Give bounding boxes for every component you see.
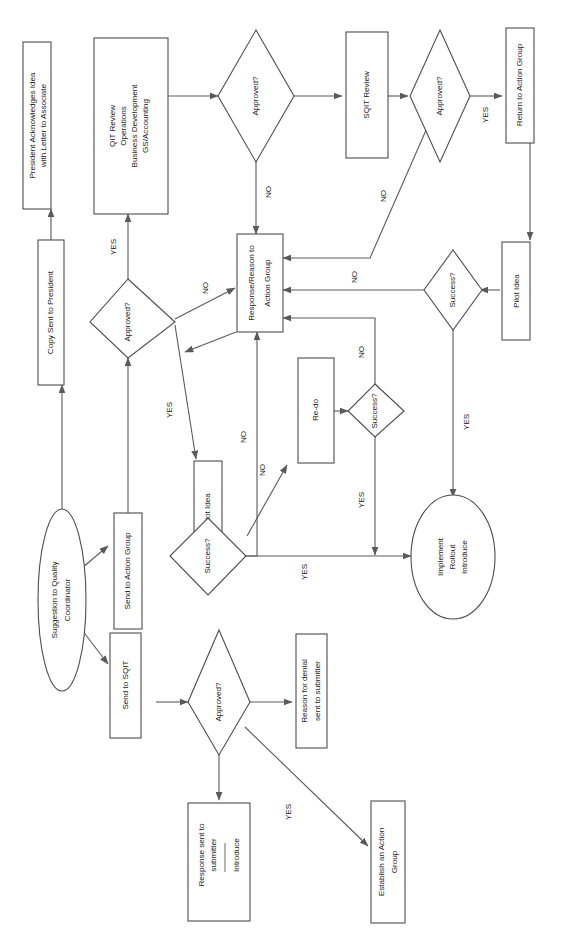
node-implement[interactable]: Implement Rollout Introduce: [411, 495, 495, 619]
node-label: with Letter to Associate: [39, 83, 48, 168]
node-establish-group[interactable]: Establish an Action Group: [371, 801, 405, 923]
edge-label-no: NO: [201, 282, 210, 294]
node-label: submitter: [209, 838, 218, 872]
node-qit-review[interactable]: QIT Review Operations Business Developme…: [94, 38, 168, 214]
edge-label-no: NO: [350, 271, 359, 283]
node-send-action-group[interactable]: Send to Action Group: [114, 513, 142, 629]
node-copy-president[interactable]: Copy Sent to President: [38, 240, 64, 385]
node-label: sent to submitter: [313, 661, 322, 721]
node-label: Coordinator: [63, 579, 72, 622]
node-label: Business Development: [130, 84, 139, 168]
node-label: Success?: [448, 272, 457, 308]
edge-label-yes: YES: [109, 238, 118, 255]
node-label: SQIT Review: [362, 71, 371, 119]
node-label: Rollout: [448, 544, 457, 570]
background: [0, 0, 564, 951]
edge-label-no: NO: [379, 190, 388, 202]
node-label: Operations: [119, 106, 128, 146]
node-label: Establish an Action: [377, 828, 386, 896]
edge-label-no: NO: [264, 186, 273, 198]
node-label: Introduce: [460, 540, 469, 574]
edge-label-yes: YES: [481, 106, 490, 123]
edge-label-yes: YES: [165, 401, 174, 418]
node-label: Group: [390, 850, 399, 873]
edge-label-yes: YES: [462, 413, 471, 430]
node-president-ack[interactable]: President Acknowledges Idea with Letter …: [23, 42, 51, 209]
node-send-sqit[interactable]: Send to SQIT: [110, 633, 141, 738]
edge-label-yes: YES: [300, 563, 309, 580]
node-label: Response sent to: [197, 823, 206, 886]
edge-label-no: NO: [357, 346, 366, 358]
node-response-submit[interactable]: Response sent to submitter Introduce: [188, 803, 250, 921]
node-sqit-review[interactable]: SQIT Review: [346, 32, 388, 158]
node-label: Reason for denial: [300, 659, 309, 723]
flowchart-canvas: YES NO YES NO YES NO NO YES: [0, 0, 564, 951]
node-label: Success?: [203, 538, 212, 574]
edge-label-yes: YES: [357, 491, 366, 508]
node-label: GS/Accounting: [141, 99, 150, 153]
node-label: President Acknowledges Idea: [28, 72, 37, 179]
node-label: Approved?: [123, 302, 132, 342]
node-reason-denial[interactable]: Reason for denial sent to submitter: [296, 634, 327, 748]
node-label: Implement: [436, 537, 445, 576]
node-label: Send to SQIT: [121, 660, 130, 709]
edge-label-no: NO: [258, 464, 267, 476]
node-return-action-group[interactable]: Return to Action Group: [506, 28, 534, 143]
node-label: QIT Review: [108, 105, 117, 147]
node-label: Re-do: [311, 398, 320, 421]
node-pilot-idea-right[interactable]: Pilot Idea: [502, 242, 530, 340]
node-label: Pilot Idea: [512, 274, 521, 308]
node-label: Return to Action Group: [515, 43, 524, 126]
node-label: Suggestion to Quality: [50, 561, 59, 639]
node-label: Success?: [370, 393, 379, 429]
node-label: Send to Action Group: [123, 532, 132, 609]
node-redo[interactable]: Re-do: [298, 358, 334, 463]
node-label: Response/Reason to: [247, 245, 256, 321]
edge-label-yes: YES: [284, 803, 293, 820]
flowchart-svg: YES NO YES NO YES NO NO YES: [0, 0, 564, 951]
edge-label-no: NO: [239, 431, 248, 443]
node-label: Action Group: [263, 259, 272, 307]
node-label: Approved?: [214, 682, 223, 722]
node-response-reason[interactable]: Response/Reason to Action Group: [237, 234, 283, 332]
node-label: Copy Sent to President: [46, 270, 55, 354]
node-label: Approved?: [435, 76, 444, 116]
node-label: Introduce: [232, 838, 241, 872]
node-start[interactable]: Suggestion to Quality Coordinator: [38, 509, 86, 691]
node-label: Approved?: [251, 76, 260, 116]
